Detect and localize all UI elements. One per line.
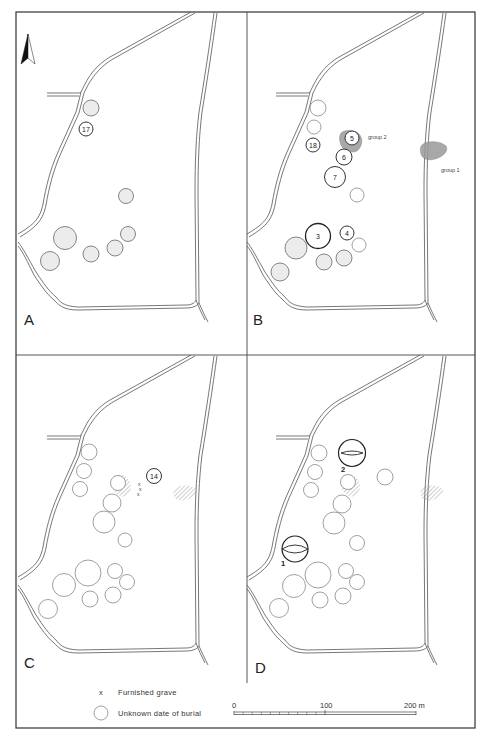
north-arrow-icon (21, 34, 35, 64)
burial-mound (41, 252, 60, 271)
burial-mound (83, 100, 99, 116)
unknown-date-label: Unknown date of burial (118, 709, 201, 718)
burial-mound (105, 587, 121, 603)
hatched-area (420, 485, 443, 500)
burial-mound (336, 250, 352, 266)
panel-d: 21D (247, 355, 446, 676)
mound-number: 17 (82, 126, 90, 133)
panel-letter: A (24, 311, 34, 328)
burial-mound (333, 495, 351, 513)
burial-mound (312, 592, 328, 608)
burial-mound (323, 512, 345, 534)
mound-number: 6 (342, 154, 346, 161)
panel-letter: C (24, 654, 35, 671)
burial-mound (120, 575, 135, 590)
burial-mound (350, 536, 365, 551)
boat-mound-number: 1 (281, 559, 285, 568)
legend: x Furnished grave Unknown date of burial (94, 688, 201, 720)
burial-mound (75, 560, 101, 586)
scale-label: 100 (320, 701, 333, 710)
road-network (18, 12, 217, 322)
burial-mound (82, 591, 98, 607)
burial-mound (93, 511, 115, 533)
burial-mound (77, 464, 92, 479)
mound-number: 3 (316, 233, 320, 240)
furnished-grave-symbol: x (99, 688, 103, 697)
scale-bar: 0100200 m (232, 701, 425, 715)
boat-mound (339, 440, 366, 467)
burial-mound (271, 263, 289, 281)
panel-b: 1856734group 2group 1B (247, 12, 460, 328)
burial-mound (350, 575, 365, 590)
burial-mound (305, 562, 331, 588)
hatched-area (173, 485, 196, 500)
cemetery-phase-map-figure: 17A1856734group 2group 1B14xxxC21D x Fur… (0, 0, 490, 740)
burial-mound (339, 564, 354, 579)
panels: 17A1856734group 2group 1B14xxxC21D (18, 12, 460, 676)
panel-letter: D (255, 659, 266, 676)
panel-a: 17A (18, 12, 217, 328)
burial-mound (350, 188, 364, 202)
burial-mound (39, 600, 58, 619)
burial-mound (270, 599, 289, 618)
burial-mound (54, 227, 77, 250)
burial-mound (341, 475, 356, 490)
burial-mound (352, 238, 366, 252)
mound-number: 18 (309, 142, 317, 149)
burial-mound (103, 494, 121, 512)
burial-mound (73, 482, 88, 497)
burial-mound (316, 254, 332, 270)
group-label: group 1 (441, 167, 460, 173)
burial-mound (307, 120, 321, 134)
burial-mound (108, 564, 123, 579)
burial-mound (53, 574, 76, 597)
burial-mound (119, 189, 134, 204)
boat-mound (282, 536, 308, 562)
unknown-date-circle-icon (94, 706, 108, 720)
burial-mound (335, 588, 351, 604)
mound-number: 14 (150, 473, 158, 480)
burial-mound (283, 575, 306, 598)
burial-group-area (420, 142, 446, 160)
mound-number: 4 (345, 230, 349, 237)
group-label: group 2 (368, 134, 387, 140)
burial-mound (308, 465, 323, 480)
burial-mound (304, 483, 319, 498)
scale-label: 200 m (404, 701, 425, 710)
burial-mound (377, 469, 393, 485)
scale-label: 0 (232, 701, 236, 710)
panel-letter: B (253, 311, 263, 328)
furnished-grave-label: Furnished grave (118, 688, 177, 697)
boat-mound-number: 2 (341, 465, 345, 474)
burial-mound (285, 237, 307, 259)
burial-mound (107, 240, 123, 256)
panel-c: 14xxxC (18, 355, 217, 671)
mound-number: 7 (333, 174, 337, 181)
burial-mound (121, 227, 136, 242)
burial-mound (310, 100, 326, 116)
burial-mound (118, 533, 132, 547)
burial-mound (81, 444, 97, 460)
burial-mound (311, 445, 327, 461)
figure-frame (16, 12, 475, 728)
burial-mound (83, 246, 99, 262)
burial-mound (111, 476, 126, 491)
mound-number: 5 (350, 135, 354, 142)
